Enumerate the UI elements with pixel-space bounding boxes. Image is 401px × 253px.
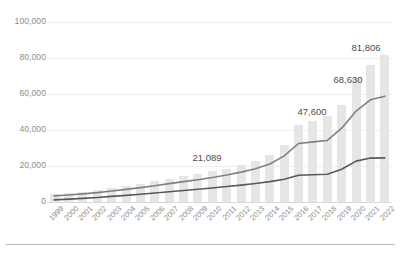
chart-container: 020,00040,00060,00080,000100,000 1999200…: [0, 0, 401, 253]
data-label: 68,630: [333, 74, 362, 85]
data-label: 21,089: [192, 152, 221, 163]
footer-divider: [6, 244, 395, 245]
line-upper-line: [54, 96, 385, 196]
y-tick-label: 40,000: [0, 124, 46, 134]
line-lower-line: [54, 158, 385, 200]
plot-area: [47, 22, 392, 202]
y-tick-label: 20,000: [0, 160, 46, 170]
y-tick-label: 60,000: [0, 88, 46, 98]
y-tick-label: 100,000: [0, 16, 46, 26]
data-label: 81,806: [351, 42, 380, 53]
gridline-0: [47, 202, 392, 203]
y-tick-label: 80,000: [0, 52, 46, 62]
data-label: 47,600: [297, 106, 326, 117]
line-series: [47, 22, 392, 202]
y-tick-label: 0: [0, 196, 46, 206]
x-axis-tick-labels: 1999200020012002200320042005200620072008…: [47, 204, 392, 248]
